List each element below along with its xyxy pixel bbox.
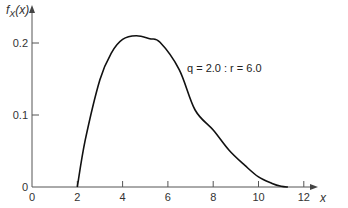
pdf-chart: 02468101200.10.2 fX(x) x q = 2.0 : r = 6… (0, 0, 348, 208)
x-tick-label: 12 (298, 191, 310, 203)
x-tick-label: 2 (74, 191, 80, 203)
density-curve (77, 36, 288, 187)
x-tick-label: 6 (165, 191, 171, 203)
y-axis-arrow-icon (29, 5, 35, 13)
x-tick-label: 4 (120, 191, 126, 203)
ticks: 02468101200.10.2 (13, 37, 310, 203)
y-tick-label: 0 (22, 181, 28, 193)
x-axis-arrow-icon (310, 184, 318, 190)
x-tick-label: 0 (29, 191, 35, 203)
y-tick-label: 0.2 (13, 37, 28, 49)
x-tick-label: 10 (252, 191, 264, 203)
axes (29, 5, 318, 190)
parameter-annotation: q = 2.0 : r = 6.0 (187, 62, 262, 74)
x-tick-label: 8 (210, 191, 216, 203)
x-axis-label: x (319, 191, 327, 205)
y-axis-label: fX(x) (6, 3, 29, 19)
y-tick-label: 0.1 (13, 109, 28, 121)
